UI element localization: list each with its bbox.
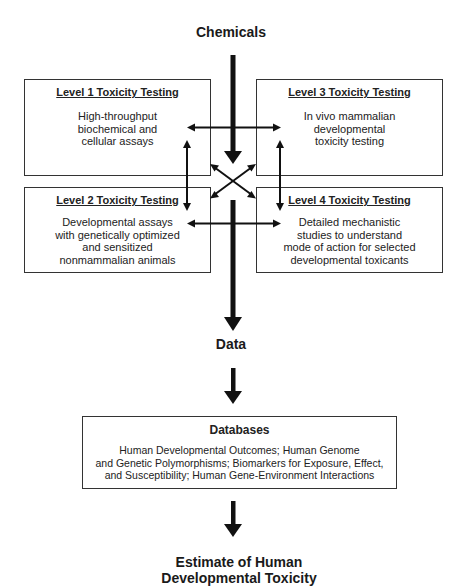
double-arrow-vertical-left-icon xyxy=(183,140,191,211)
arrow-down-icon xyxy=(224,501,242,537)
arrow-down-icon xyxy=(224,200,242,331)
arrow-down-icon xyxy=(224,368,242,404)
arrow-down-icon xyxy=(224,55,242,164)
double-arrow-vertical-right-icon xyxy=(276,140,284,211)
